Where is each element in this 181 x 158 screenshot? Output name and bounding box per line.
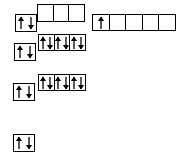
- electron-slot: [78, 75, 86, 90]
- spin-up-arrow-icon: [70, 76, 77, 89]
- electron-slot: [55, 35, 63, 50]
- electron-slot: [70, 75, 78, 90]
- spin-up-arrow-icon: [98, 16, 105, 29]
- group-row2-triple-filled: [38, 34, 86, 51]
- orbital-box-empty[interactable]: [37, 4, 54, 22]
- spin-up-arrow-icon: [18, 17, 25, 30]
- orbital-box-paired[interactable]: [13, 134, 35, 152]
- electron-slot: [15, 44, 25, 60]
- spin-down-arrow-icon: [27, 46, 34, 59]
- orbital-box-paired[interactable]: [13, 83, 35, 101]
- electron-slot: [14, 135, 24, 151]
- empty-orbital-slot: [143, 15, 159, 30]
- group-row3-triple-filled: [38, 74, 86, 91]
- electron-slot: [16, 15, 26, 31]
- electron-slot: [14, 84, 24, 100]
- empty-orbital-slot: [69, 5, 84, 21]
- electron-slot: [39, 35, 47, 50]
- orbital-box-paired[interactable]: [15, 14, 37, 32]
- electron-slot: [39, 75, 47, 90]
- spin-up-arrow-icon: [39, 36, 46, 49]
- orbital-box-paired[interactable]: [38, 34, 55, 51]
- electron-slot: [70, 35, 78, 50]
- spin-down-arrow-icon: [26, 86, 33, 99]
- group-row3-single-filled: [13, 83, 35, 101]
- electron-slot: [55, 75, 63, 90]
- spin-up-arrow-icon: [16, 137, 23, 150]
- orbital-box-paired[interactable]: [54, 74, 71, 91]
- orbital-box-paired[interactable]: [14, 43, 36, 61]
- group-row1-triple-empty: [37, 4, 85, 22]
- electron-slot: [24, 84, 34, 100]
- spin-up-arrow-icon: [55, 36, 62, 49]
- group-row2-single-filled: [14, 43, 36, 61]
- spin-down-arrow-icon: [28, 17, 35, 30]
- orbital-box-empty[interactable]: [68, 4, 85, 22]
- electron-slot: [78, 35, 86, 50]
- orbital-box-empty[interactable]: [158, 14, 176, 31]
- empty-orbital-slot: [38, 5, 53, 21]
- electron-slot: [24, 135, 34, 151]
- orbital-box-single[interactable]: [92, 14, 110, 31]
- spin-up-arrow-icon: [16, 86, 23, 99]
- orbital-box-empty[interactable]: [53, 4, 70, 22]
- group-row1-single-filled: [15, 14, 37, 32]
- empty-orbital-slot: [159, 15, 175, 30]
- spin-up-arrow-icon: [55, 76, 62, 89]
- empty-orbital-slot: [126, 15, 142, 30]
- electron-slot: [93, 15, 109, 30]
- orbital-box-paired[interactable]: [54, 34, 71, 51]
- orbital-box-paired[interactable]: [69, 74, 86, 91]
- orbital-box-empty[interactable]: [125, 14, 143, 31]
- group-row4-single-filled: [13, 134, 35, 152]
- orbital-box-paired[interactable]: [38, 74, 55, 91]
- orbital-box-paired[interactable]: [69, 34, 86, 51]
- spin-down-arrow-icon: [78, 36, 85, 49]
- empty-orbital-slot: [110, 15, 126, 30]
- spin-down-arrow-icon: [78, 76, 85, 89]
- spin-down-arrow-icon: [26, 137, 33, 150]
- orbital-box-empty[interactable]: [109, 14, 127, 31]
- group-row1-quintuple: [92, 14, 176, 31]
- spin-up-arrow-icon: [70, 36, 77, 49]
- empty-orbital-slot: [54, 5, 69, 21]
- orbital-box-empty[interactable]: [142, 14, 160, 31]
- orbital-diagram-canvas: [0, 0, 181, 158]
- electron-slot: [25, 44, 35, 60]
- spin-up-arrow-icon: [39, 76, 46, 89]
- electron-slot: [26, 15, 36, 31]
- spin-up-arrow-icon: [17, 46, 24, 59]
